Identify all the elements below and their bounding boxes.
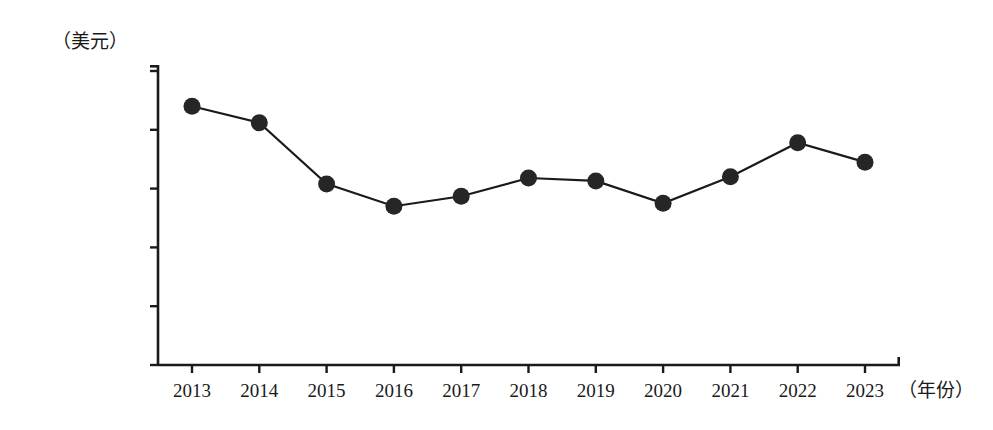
x-axis-tick-label-group: 2013201420152016201720182019202020212022…	[0, 0, 993, 430]
x-axis-label: （年份）	[898, 381, 974, 400]
line-chart: （美元） 50 000. 0040 000. 0030 000. 0020 00…	[0, 0, 993, 430]
x-axis-tick-label: 2023	[825, 381, 905, 400]
